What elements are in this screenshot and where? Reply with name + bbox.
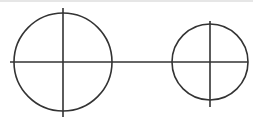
two-circles-diagram	[0, 0, 253, 134]
right-circle-group	[172, 21, 248, 107]
